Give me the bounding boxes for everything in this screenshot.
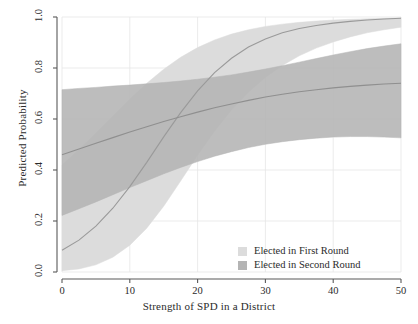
chart-legend: Elected in First Round Elected in Second… (238, 244, 360, 272)
x-tick-label: 30 (251, 285, 279, 296)
chart-plot-area (0, 0, 418, 324)
y-tick-label: 0.6 (33, 104, 44, 132)
legend-label-second-round: Elected in Second Round (254, 258, 360, 272)
x-tick-label: 50 (387, 285, 415, 296)
y-axis-title: Predicted Probability (16, 72, 28, 204)
legend-swatch-first-round (238, 247, 247, 256)
x-tick-label: 0 (48, 285, 76, 296)
y-tick-label: 0.8 (33, 53, 44, 81)
y-tick-label: 1.0 (33, 2, 44, 30)
legend-label-first-round: Elected in First Round (254, 244, 349, 258)
y-tick-label: 0.4 (33, 155, 44, 183)
legend-swatch-second-round (238, 261, 247, 270)
y-tick-label: 0.0 (33, 257, 44, 285)
x-axis-title: Strength of SPD in a District (0, 300, 418, 312)
predicted-probability-chart: Predicted Probability Strength of SPD in… (0, 0, 418, 324)
x-tick-label: 20 (184, 285, 212, 296)
legend-item-first-round[interactable]: Elected in First Round (238, 244, 360, 258)
y-tick-label: 0.2 (33, 206, 44, 234)
legend-item-second-round[interactable]: Elected in Second Round (238, 258, 360, 272)
x-tick-label: 10 (116, 285, 144, 296)
x-tick-label: 40 (319, 285, 347, 296)
